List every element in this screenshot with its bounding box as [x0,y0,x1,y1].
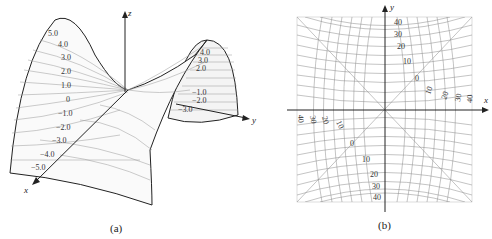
z-axis-label: z [127,8,132,18]
surface-label: −4.0 [40,150,55,159]
contour-label: 30 [308,115,318,124]
contour-label: 40 [296,114,306,123]
contour-label: 0 [350,139,354,148]
contour-label: 40 [465,94,475,103]
surface-label: −3.0 [52,136,67,145]
saddle-surface-figure: z x y 5.0 4.0 3.0 2.0 1.0 0 −1.0 −2.0 −3… [10,8,256,235]
contour-label: 30 [372,182,380,191]
contour-label: 40 [373,193,381,202]
contour-label: 10 [403,57,411,66]
surface-label: 2.0 [196,64,206,73]
x-axis-label: x [23,185,28,195]
contour-label: 30 [394,30,402,39]
x-axis-label: x [483,95,488,105]
surface-label: −2.0 [192,96,207,105]
surface-label: 5.0 [48,29,58,38]
caption-b: (b) [378,219,391,232]
contour-label: 10 [362,155,370,164]
surface-label: 4.0 [58,40,68,49]
surface-label: −2.0 [56,123,71,132]
caption-a: (a) [110,222,123,235]
contour-plot-figure: y x 40 30 20 10 0 0 10 20 30 40 10 20 30… [287,2,489,232]
contour-label: 20 [370,170,378,179]
y-axis-label: y [389,2,394,12]
surface-label: 0 [66,95,70,104]
surface-label: 2.0 [61,67,71,76]
contour-label: 0 [415,74,419,83]
contour-label: 40 [394,18,402,27]
contour-label: 20 [397,42,405,51]
y-axis-label: y [251,115,256,125]
contour-label: 30 [453,93,463,102]
surface-label: 1.0 [61,81,71,90]
surface-label: 3.0 [61,53,71,62]
surface-label: −1.0 [58,109,73,118]
surface-label: −5.0 [31,163,46,172]
surface-label: −3.0 [178,105,193,114]
